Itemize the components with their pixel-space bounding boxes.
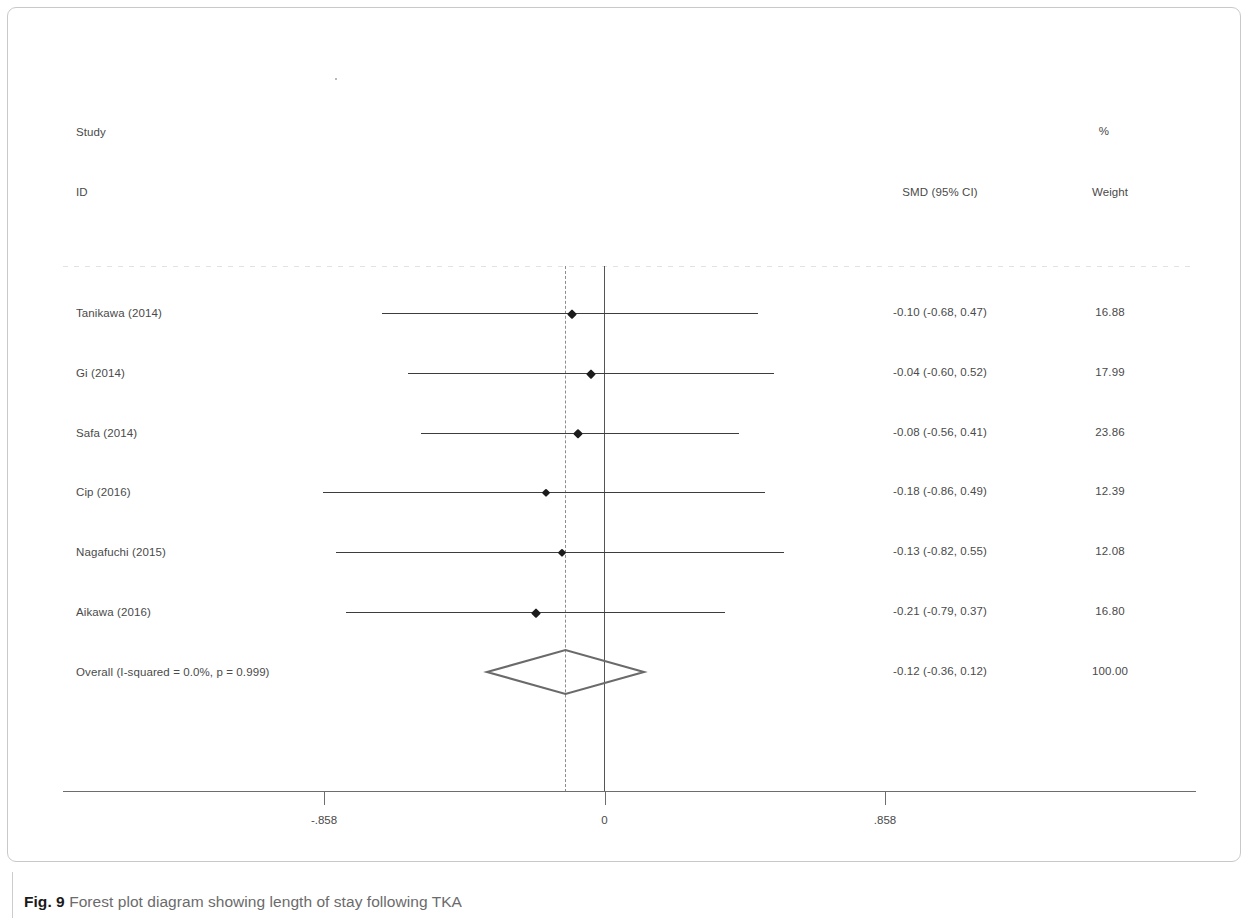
overall-label: Overall (I-squared = 0.0%, p = 0.999) [76,667,270,679]
null-effect-line [604,266,605,792]
axis-tick-mark [324,792,325,805]
figure-caption: Fig. 9 Forest plot diagram showing lengt… [24,893,462,911]
point-estimate-marker [587,369,597,379]
study-weight-text: 23.86 [1095,427,1124,439]
axis-tick-label: .858 [874,814,896,826]
axis-tick-label: -.858 [311,814,337,826]
effect-estimate-text: -0.10 (-0.68, 0.47) [893,307,987,319]
study-weight-text: 16.88 [1095,307,1124,319]
study-label: Nagafuchi (2015) [76,547,166,559]
study-label: Cip (2016) [76,487,131,499]
header-effect: SMD (95% CI) [902,187,977,199]
effect-estimate-text: -0.13 (-0.82, 0.55) [893,546,987,558]
point-estimate-marker [531,608,540,617]
figure-number: Fig. 9 [24,893,65,910]
study-label: Safa (2014) [76,428,137,440]
axis-tick-mark [605,792,606,805]
axis-tick-mark [885,792,886,805]
x-axis-line [63,791,1196,792]
study-weight-text: 16.80 [1095,606,1124,618]
forest-plot: Study ID SMD (95% CI) % Weight Tanikawa … [0,0,1248,862]
point-estimate-marker [567,309,577,319]
point-estimate-marker [541,488,550,497]
study-label: Aikawa (2016) [76,607,151,619]
effect-estimate-text: -0.08 (-0.56, 0.41) [893,427,987,439]
effect-estimate-text: -0.18 (-0.86, 0.49) [893,486,987,498]
point-estimate-marker [573,428,583,438]
figure-caption-text: Forest plot diagram showing length of st… [65,893,462,910]
header-percent: % [1099,126,1109,138]
effect-estimate-text: -0.21 (-0.79, 0.37) [893,606,987,618]
caption-accent-rule [12,872,13,918]
header-id: ID [76,187,88,199]
overall-diamond [481,644,650,700]
overall-effect-text: -0.12 (-0.36, 0.12) [893,666,987,678]
study-weight-text: 17.99 [1095,367,1124,379]
overall-weight-text: 100.00 [1092,666,1128,678]
artifact-speck [335,78,337,80]
study-weight-text: 12.08 [1095,546,1124,558]
study-label: Gi (2014) [76,368,125,380]
header-divider [63,266,1196,267]
header-weight: Weight [1092,187,1128,199]
pooled-effect-line [565,266,566,792]
study-label: Tanikawa (2014) [76,308,162,320]
effect-estimate-text: -0.04 (-0.60, 0.52) [893,367,987,379]
axis-tick-label: 0 [601,814,607,826]
header-study: Study [76,127,106,139]
study-weight-text: 12.39 [1095,486,1124,498]
